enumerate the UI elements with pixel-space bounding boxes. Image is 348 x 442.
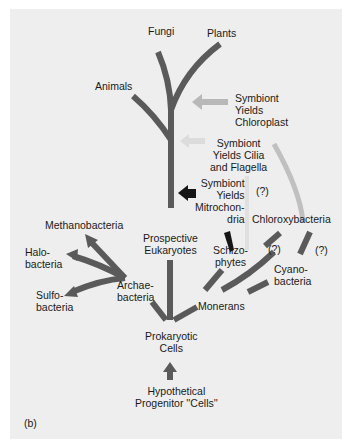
arrow-chloroplast — [192, 94, 228, 110]
label-monerans: Monerans — [198, 300, 245, 312]
arrow-progenitor — [163, 362, 177, 380]
label-plants: Plants — [207, 27, 236, 39]
label-cyanobacteria: Cyano- bacteria — [274, 263, 311, 287]
branch-animals — [133, 96, 171, 140]
label-progenitor: Hypothetical Progenitor ''Cells'' — [135, 385, 218, 409]
branch-monerans — [174, 307, 197, 320]
label-prokaryotic-cells: Prokaryotic Cells — [145, 330, 198, 354]
label-halobacteria: Halo- bacteria — [25, 246, 62, 270]
label-symbiont-cilia: Symbiont Yields Cilia and Flagella — [210, 137, 267, 173]
arrowhead-halobacteria — [66, 249, 78, 261]
label-chloroxybacteria: Chloroxybacteria — [252, 213, 331, 225]
label-question-1: (?) — [256, 185, 269, 197]
arrow-cilia — [180, 134, 205, 148]
label-prospective-eukaryotes: Prospective Eukaryotes — [143, 232, 198, 256]
label-question-3: (?) — [315, 244, 328, 256]
label-question-2: (?) — [268, 243, 281, 255]
panel-label: (b) — [24, 417, 37, 429]
label-archaebacteria: Archae- bacteria — [117, 279, 154, 303]
label-symbiont-chloroplast: Symbiont Yields Chloroplast — [235, 92, 288, 128]
branch-chloroplast-source — [274, 144, 303, 222]
branch-cyano-lower — [248, 282, 268, 292]
label-schizophytes: Schizo- phytes — [213, 244, 248, 268]
label-methanobacteria: Methanobacteria — [45, 219, 123, 231]
label-fungi: Fungi — [148, 25, 174, 37]
arrow-mitochondria — [178, 185, 196, 201]
branch-q3 — [300, 232, 310, 254]
label-sulfobacteria: Sulfo- bacteria — [36, 289, 73, 313]
label-symbiont-mitochondria: Symbiont Yields Mitrochon- dria — [195, 177, 245, 225]
branch-schizophytes — [205, 270, 222, 290]
branch-archaebacteria — [152, 302, 166, 320]
label-animals: Animals — [95, 80, 132, 92]
